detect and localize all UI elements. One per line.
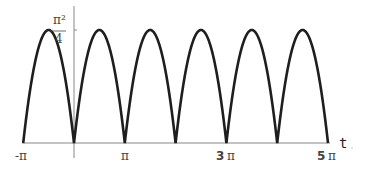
x-axis-label: t xyxy=(339,135,347,151)
x-tick-neg-pi: -π xyxy=(15,149,27,163)
dot-mark xyxy=(351,147,353,149)
x-tick-3pi: 3 π xyxy=(216,149,235,163)
x-tick-3pi-coef: 3 xyxy=(216,149,224,163)
y-tick-numerator: π² xyxy=(53,13,66,27)
x-tick-3pi-pi: π xyxy=(227,149,235,163)
x-tick-5pi: 5 π xyxy=(317,149,336,163)
plot-area: π² 4 -π π 3 π 5 π t xyxy=(0,0,370,170)
y-tick-label: π² 4 xyxy=(50,13,66,46)
function-curve xyxy=(23,30,328,143)
x-tick-5pi-coef: 5 xyxy=(317,149,325,163)
y-tick-denominator: 4 xyxy=(55,32,63,46)
x-tick-5pi-pi: π xyxy=(328,149,336,163)
x-tick-pi: π xyxy=(121,149,129,163)
